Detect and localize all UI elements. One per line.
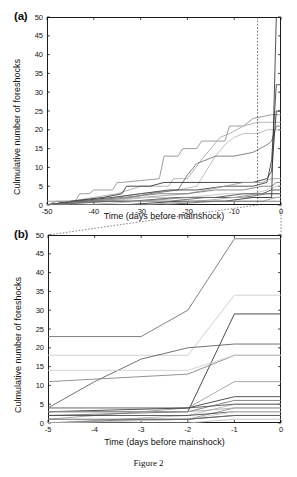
zoom-connector-line (48, 205, 258, 235)
zoom-connector-lines (0, 0, 297, 477)
figure-2: (a) Culmulative number of foreshocks Tim… (0, 0, 297, 477)
figure-caption: Figure 2 (0, 458, 297, 468)
